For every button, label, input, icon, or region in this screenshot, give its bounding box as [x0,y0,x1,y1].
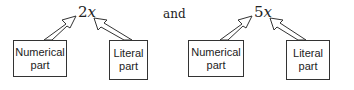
label-line: Literal [110,47,147,60]
label-line: Numerical [189,46,243,59]
arrow-icon [44,16,76,40]
variable: x [264,3,272,21]
coefficient: 2 [78,3,88,21]
literal-part-box: Literal part [109,40,148,80]
label-line: part [14,59,66,72]
label-line: part [189,59,243,72]
term-parts-diagram: 2x Numerical part Literal part and 5x Nu… [0,0,354,90]
numerical-part-box: Numerical part [188,40,244,77]
numerical-part-box: Numerical part [13,40,67,77]
label-line: Numerical [14,46,66,59]
label-line: Literal [287,47,329,60]
arrow-icon [94,18,132,40]
arrow-icon [270,18,306,40]
arrow-icon [220,16,252,40]
label-line: part [110,60,147,73]
variable: x [88,3,96,21]
expression-2x: 2x [78,3,96,21]
coefficient: 5 [254,3,264,21]
label-line: part [287,60,329,73]
and-connector: and [163,7,186,21]
expression-5x: 5x [254,3,272,21]
literal-part-box: Literal part [286,40,330,80]
